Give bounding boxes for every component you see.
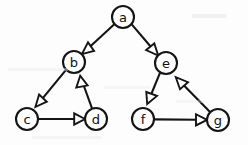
node-g-label: g <box>214 113 222 128</box>
node-c[interactable]: c <box>16 108 38 130</box>
node-e[interactable]: e <box>155 52 177 74</box>
edge-a-to-e <box>132 24 159 55</box>
edge-a-to-b <box>82 24 115 54</box>
node-d[interactable]: d <box>85 108 107 130</box>
node-d-label: d <box>92 112 100 127</box>
node-a[interactable]: a <box>112 6 134 28</box>
edge-e-to-f <box>146 72 160 104</box>
graph-diagram-canvas: a b e c d f <box>0 0 248 145</box>
node-b[interactable]: b <box>63 51 85 73</box>
edge-b-to-c <box>35 70 65 107</box>
node-f-label: f <box>141 112 146 127</box>
graph-svg: a b e c d f <box>0 0 248 145</box>
edge-layer <box>35 24 210 125</box>
edge-e-to-f-arrowhead <box>146 92 157 104</box>
node-f[interactable]: f <box>132 108 154 130</box>
edge-c-to-d-arrowhead <box>74 113 85 124</box>
edge-e-to-f-line <box>151 72 161 96</box>
edge-d-to-b-arrowhead <box>76 76 87 88</box>
edge-f-to-g <box>154 114 207 125</box>
node-b-label: b <box>70 55 78 70</box>
node-c-label: c <box>23 112 30 127</box>
edge-d-to-b <box>76 76 92 109</box>
edge-c-to-d <box>38 113 85 124</box>
edge-f-to-g-arrowhead <box>196 114 207 125</box>
node-g[interactable]: g <box>207 109 229 131</box>
edge-d-to-b-line <box>83 84 92 109</box>
edge-a-to-e-arrowhead <box>146 43 158 55</box>
node-a-label: a <box>119 10 127 25</box>
edge-g-to-e-line <box>184 86 211 113</box>
node-layer: a b e c d f <box>16 6 229 131</box>
node-e-label: e <box>162 56 170 71</box>
edge-g-to-e <box>176 77 211 113</box>
